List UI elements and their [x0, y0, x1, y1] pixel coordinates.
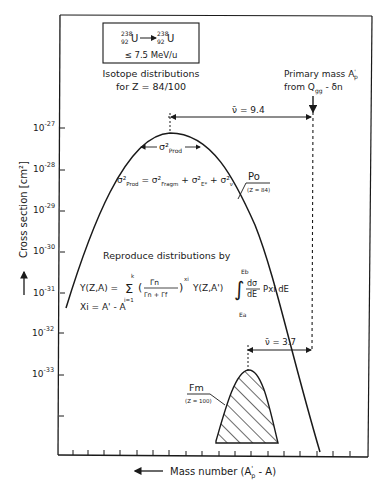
variance-formula: σ²Prod = σ²Fragm + σ²E* + σ²ν — [117, 175, 233, 188]
diagram-canvas: 10-27 10-28 10-29 10-30 10-31 10-32 10-3… — [0, 0, 384, 491]
svg-text:ν̄ = 3.7: ν̄ = 3.7 — [265, 337, 296, 347]
ytick-label: 10-31 — [33, 285, 55, 298]
ytick-label: 10-27 — [33, 120, 55, 133]
svg-text:(Z = 84): (Z = 84) — [247, 187, 270, 193]
svg-text:Σ: Σ — [125, 281, 133, 296]
ytick-label: 10-29 — [33, 202, 55, 215]
svg-text:Pxi dE: Pxi dE — [263, 284, 289, 294]
fm-distribution-curve — [216, 370, 278, 443]
svg-text:Reproduce distributions by: Reproduce distributions by — [103, 250, 231, 261]
svg-text:k: k — [131, 273, 135, 279]
svg-text:Y(Z,A) =: Y(Z,A) = — [79, 283, 118, 293]
y-tick-labels: 10-27 10-28 10-29 10-30 10-31 10-32 10-3… — [32, 120, 55, 379]
ytick-label: 10-28 — [33, 161, 55, 174]
svg-text:Isotope distributions: Isotope distributions — [102, 68, 199, 79]
ytick-label: 10-32 — [32, 325, 54, 338]
svg-text:Primary mass A'p: Primary mass A'p — [284, 68, 358, 81]
svg-text:(Z = 100): (Z = 100) — [185, 398, 212, 404]
svg-text:≤ 7.5 MeV/u: ≤ 7.5 MeV/u — [125, 50, 178, 60]
svg-text:Γn: Γn — [150, 278, 159, 287]
svg-text:Y(Z,A'): Y(Z,A') — [192, 283, 223, 293]
y-axis-label: Cross section [cm²] — [18, 161, 29, 295]
svg-text:Γn + Γf: Γn + Γf — [144, 291, 168, 299]
svg-text:U: U — [131, 33, 138, 44]
x-axis-label: Mass number (A'p - A) — [135, 465, 276, 480]
svg-text:Cross section [cm²]: Cross section [cm²] — [18, 161, 29, 258]
svg-text:92: 92 — [121, 38, 129, 45]
svg-text:Fm: Fm — [189, 382, 204, 393]
svg-text:ν̄ = 9.4: ν̄ = 9.4 — [232, 105, 265, 115]
reaction-box: 238 92 U 238 92 U ≤ 7.5 MeV/u — [103, 23, 199, 63]
reproduce-formula: Reproduce distributions by Y(Z,A) = k Σ … — [79, 250, 289, 318]
svg-text:dσ: dσ — [247, 279, 257, 288]
x-axis — [58, 455, 368, 457]
primary-mass-annotation: Primary mass A'p from Qgg - δn — [284, 68, 358, 350]
nu-po-span: ν̄ = 9.4 — [168, 105, 311, 133]
svg-text:): ) — [179, 281, 183, 294]
svg-text:U: U — [167, 33, 174, 44]
svg-text:Eb: Eb — [241, 268, 249, 275]
svg-text:Mass number (A'p - A): Mass number (A'p - A) — [170, 465, 276, 480]
svg-text:for Z = 84/100: for Z = 84/100 — [116, 81, 186, 92]
svg-text:Po: Po — [248, 171, 260, 182]
svg-text:92: 92 — [157, 38, 165, 45]
svg-text:xi: xi — [184, 276, 189, 282]
svg-text:∫: ∫ — [234, 277, 244, 301]
fm-label: Fm (Z = 100) — [185, 382, 225, 405]
ytick-label: 10-33 — [32, 366, 54, 379]
nu-fm-span: ν̄ = 3.7 — [248, 337, 311, 372]
primary-mass-dashed-line — [312, 112, 313, 350]
diagram-caption: Isotope distributions for Z = 84/100 — [102, 68, 199, 92]
svg-text:from Qgg - δn: from Qgg - δn — [284, 82, 343, 95]
po-label: Po (Z = 84) — [238, 171, 270, 199]
svg-text:Xi = A' - A: Xi = A' - A — [80, 302, 127, 312]
ytick-label: 10-30 — [33, 243, 55, 256]
y-axis — [58, 15, 60, 455]
svg-text:Ea: Ea — [239, 311, 247, 318]
svg-text:dE: dE — [247, 290, 257, 299]
svg-text:(: ( — [138, 281, 142, 294]
